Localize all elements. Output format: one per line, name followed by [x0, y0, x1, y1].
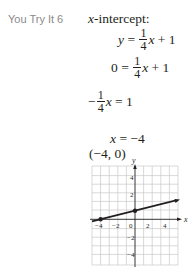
tick-labels: −4−20 24 42 −2−4 — [95, 174, 167, 259]
coordinate-graph: x y −4−20 24 42 −2−4 — [0, 0, 193, 273]
x-intercept-point — [98, 217, 102, 221]
svg-text:2: 2 — [130, 191, 134, 199]
x-axis-arrow-icon — [177, 218, 182, 222]
svg-text:2: 2 — [146, 222, 150, 230]
svg-text:−4: −4 — [127, 251, 135, 259]
svg-text:4: 4 — [163, 222, 167, 230]
svg-text:−4: −4 — [95, 222, 103, 230]
svg-text:0: 0 — [129, 222, 133, 230]
svg-text:−2: −2 — [127, 234, 135, 242]
line-arrow-icon — [175, 199, 181, 203]
y-intercept-point — [133, 209, 137, 213]
svg-text:−2: −2 — [112, 222, 120, 230]
y-axis-label: y — [131, 156, 136, 165]
x-axis-label: x — [183, 215, 188, 224]
svg-text:4: 4 — [130, 174, 134, 182]
axes — [90, 166, 180, 267]
